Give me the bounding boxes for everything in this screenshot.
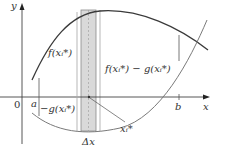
origin-label: 0 — [14, 100, 20, 110]
sample-point — [88, 96, 90, 98]
tick-a-label: a — [31, 99, 37, 109]
curve-g — [32, 20, 207, 132]
y-axis-arrowhead — [20, 3, 25, 10]
x-axis-label: x — [203, 102, 209, 112]
neg-g-label: −g(xᵢ*) — [40, 104, 75, 114]
delta-x-label: Δx — [82, 137, 95, 147]
area-between-curves-diagram — [0, 0, 238, 154]
xi-star-label: xᵢ* — [120, 124, 133, 134]
tick-b-label: b — [175, 102, 181, 112]
y-axis-label: y — [11, 1, 17, 11]
f-label: f(xᵢ*) — [48, 48, 72, 58]
f-minus-g-label: f(xᵢ*) − g(xᵢ*) — [105, 64, 171, 74]
x-axis-arrowhead — [203, 95, 210, 100]
